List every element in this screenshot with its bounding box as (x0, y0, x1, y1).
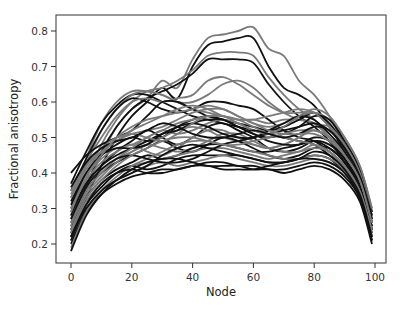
x-axis-title: Node (206, 285, 236, 299)
x-axis: 020406080100 (68, 263, 385, 283)
x-tick-label: 60 (247, 271, 260, 283)
x-tick-label: 20 (125, 271, 138, 283)
y-tick-label: 0.7 (31, 61, 48, 73)
y-tick-label: 0.4 (31, 167, 48, 179)
y-axis-title: Fractional anisotropy (7, 79, 21, 200)
x-tick-label: 80 (308, 271, 321, 283)
y-axis: 0.20.30.40.50.60.70.8 (31, 25, 56, 250)
tract-lines (71, 27, 372, 252)
y-tick-label: 0.2 (31, 238, 48, 250)
y-tick-label: 0.5 (31, 132, 48, 144)
fa-profile-chart: 0.20.30.40.50.60.70.8 020406080100 Node … (0, 0, 403, 309)
y-tick-label: 0.3 (31, 203, 48, 215)
x-tick-label: 100 (365, 271, 385, 283)
y-tick-label: 0.8 (31, 25, 48, 37)
y-tick-label: 0.6 (31, 96, 48, 108)
x-tick-label: 40 (186, 271, 199, 283)
x-tick-label: 0 (68, 271, 75, 283)
